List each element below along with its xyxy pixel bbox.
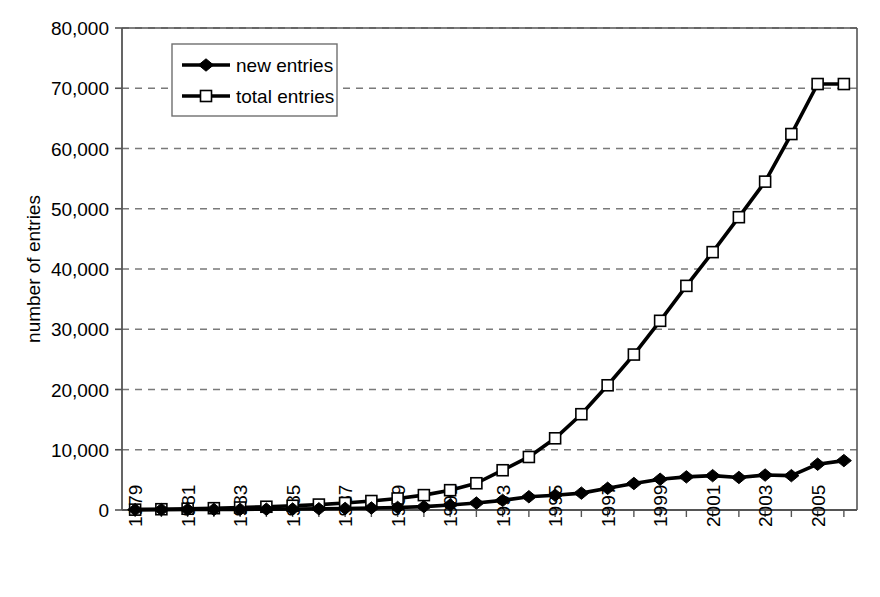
y-tick-label: 70,000: [51, 78, 109, 99]
data-point-marker: [655, 315, 666, 326]
y-tick-label: 0: [98, 500, 109, 521]
data-point-marker: [786, 129, 797, 140]
y-tick-label: 60,000: [51, 139, 109, 160]
data-point-marker: [602, 380, 613, 391]
x-tick-label: 2003: [755, 485, 776, 527]
data-point-marker: [707, 247, 718, 258]
data-point-marker: [576, 409, 587, 420]
data-point-marker: [838, 79, 849, 90]
y-axis-title-text: number of entries: [23, 195, 44, 343]
data-point-marker: [760, 176, 771, 187]
data-point-marker: [445, 485, 456, 496]
x-tick-label: 2005: [808, 485, 829, 527]
y-tick-label: 30,000: [51, 319, 109, 340]
data-point-marker: [628, 349, 639, 360]
data-point-marker: [681, 280, 692, 291]
y-tick-label: 50,000: [51, 199, 109, 220]
data-point-marker: [812, 79, 823, 90]
x-tick-label: 1999: [650, 485, 671, 527]
y-tick-label: 10,000: [51, 440, 109, 461]
line-chart: 010,00020,00030,00040,00050,00060,00070,…: [0, 0, 880, 597]
y-tick-label: 40,000: [51, 259, 109, 280]
legend-label: new entries: [236, 55, 333, 76]
y-axis-title: number of entries: [23, 195, 44, 343]
data-point-marker: [418, 490, 429, 501]
data-point-marker: [497, 465, 508, 476]
x-tick-label: 2001: [703, 485, 724, 527]
data-point-marker: [471, 478, 482, 489]
y-tick-label: 20,000: [51, 380, 109, 401]
legend-label: total entries: [236, 86, 334, 107]
chart-legend: new entriestotal entries: [172, 44, 337, 116]
data-point-marker: [550, 433, 561, 444]
chart-figure: 010,00020,00030,00040,00050,00060,00070,…: [0, 0, 880, 597]
legend-marker-open-square: [201, 91, 212, 102]
y-axis-tick-labels-group: 010,00020,00030,00040,00050,00060,00070,…: [51, 18, 109, 521]
y-tick-label: 80,000: [51, 18, 109, 39]
data-point-marker: [523, 451, 534, 462]
data-point-marker: [733, 212, 744, 223]
